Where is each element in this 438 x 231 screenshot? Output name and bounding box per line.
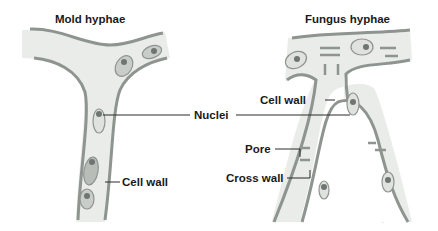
title-fungus-hyphae: Fungus hyphae xyxy=(305,13,390,25)
mold-hyphae-illustration xyxy=(22,29,170,222)
fungus-hyphae-illustration xyxy=(272,30,412,222)
label-cell-wall-left: Cell wall xyxy=(122,176,168,188)
label-nuclei: Nuclei xyxy=(194,109,229,121)
title-mold-hyphae: Mold hyphae xyxy=(55,13,125,25)
label-pore: Pore xyxy=(245,143,271,155)
label-cross-wall: Cross wall xyxy=(226,172,284,184)
nucleus xyxy=(351,39,373,55)
label-cell-wall-right: Cell wall xyxy=(260,94,306,106)
